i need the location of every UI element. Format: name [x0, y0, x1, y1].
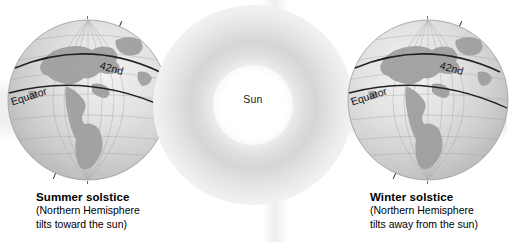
caption-title: Summer solstice	[36, 190, 140, 204]
globe-winter-solstice: 42nd Equator	[328, 0, 513, 200]
sun-core-icon	[213, 65, 293, 145]
caption-title: Winter solstice	[370, 190, 478, 204]
caption-winter-solstice: Winter solstice (Northern Hemisphere til…	[370, 190, 478, 231]
caption-line-1: (Northern Hemisphere	[370, 204, 478, 218]
sun-group: Sun	[153, 5, 353, 205]
sun-label: Sun	[153, 93, 353, 105]
caption-line-1: (Northern Hemisphere	[36, 204, 140, 218]
caption-line-2: tilts toward the sun)	[36, 218, 140, 232]
caption-line-2: tilts away from the sun)	[370, 218, 478, 232]
caption-summer-solstice: Summer solstice (Northern Hemisphere til…	[36, 190, 140, 231]
